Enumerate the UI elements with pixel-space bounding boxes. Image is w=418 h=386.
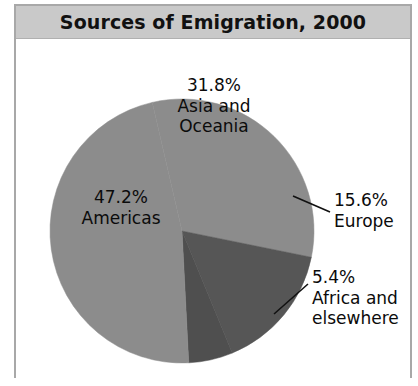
pie-label-africa-line1: Africa and [312, 288, 418, 309]
pie-chart-plot-area: 31.8% Asia and Oceania 47.2% Americas 15… [16, 39, 410, 378]
page-title: Sources of Emigration, 2000 [60, 11, 366, 33]
pie-label-americas-line1: Americas [56, 208, 186, 229]
pie-slices [50, 99, 314, 363]
pie-label-asia-line1: Asia and [144, 96, 284, 117]
pie-label-africa-line2: elsewhere [312, 308, 418, 329]
pie-label-europe: 15.6% Europe [334, 190, 418, 231]
pie-label-africa-and-elsewhere: 5.4% Africa and elsewhere [312, 267, 418, 329]
pie-label-europe-percent: 15.6% [334, 190, 418, 211]
pie-label-asia-line2: Oceania [144, 116, 284, 137]
pie-label-asia-percent: 31.8% [144, 75, 284, 96]
pie-label-asia-and-oceania: 31.8% Asia and Oceania [144, 75, 284, 137]
pie-label-americas-percent: 47.2% [56, 187, 186, 208]
chart-figure: Sources of Emigration, 2000 31.8% Asia a… [14, 4, 412, 378]
chart-title-bar: Sources of Emigration, 2000 [16, 6, 410, 39]
pie-label-americas: 47.2% Americas [56, 187, 186, 228]
pie-label-europe-line1: Europe [334, 211, 418, 232]
pie-label-africa-percent: 5.4% [312, 267, 418, 288]
